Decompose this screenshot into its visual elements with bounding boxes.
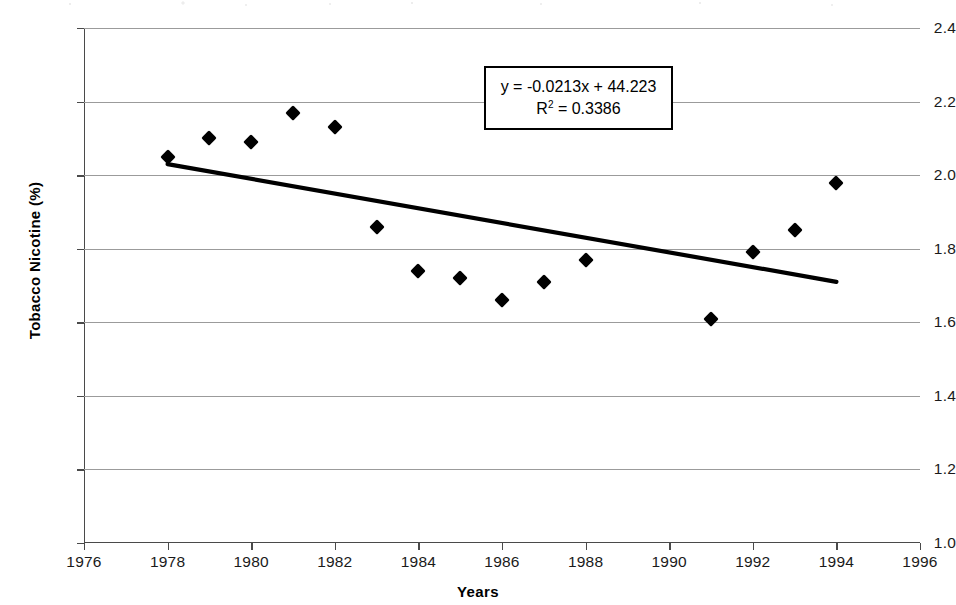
x-axis-tick-label: 1992 (718, 553, 788, 571)
x-axis-tick-label: 1990 (634, 553, 704, 571)
x-axis-tick-label: 1984 (383, 553, 453, 571)
x-axis-tick-label: 1996 (885, 553, 955, 571)
x-axis-tick (836, 543, 837, 550)
x-axis-tick-label: 1994 (801, 553, 871, 571)
gridline-y (84, 28, 920, 29)
chart-page: 1.01.21.41.61.82.02.22.4 197619781980198… (0, 0, 956, 605)
r-squared-value: = 0.3386 (553, 101, 620, 118)
x-axis-tick (920, 543, 921, 550)
x-axis-tick-label: 1976 (49, 553, 119, 571)
gridline-y (84, 249, 920, 250)
x-axis-title: Years (0, 583, 956, 600)
x-axis-tick-label: 1978 (133, 553, 203, 571)
y-axis-tick (77, 469, 84, 470)
y-axis-tick-label: 2.2 (888, 93, 956, 111)
x-axis-tick (251, 543, 252, 550)
y-axis-tick (77, 249, 84, 250)
y-axis-tick (77, 28, 84, 29)
y-axis-tick-label: 1.6 (888, 313, 956, 331)
x-axis-tick (168, 543, 169, 550)
x-axis-tick-label: 1986 (467, 553, 537, 571)
x-axis-tick (335, 543, 336, 550)
x-axis-tick (753, 543, 754, 550)
y-axis-tick-label: 1.4 (888, 387, 956, 405)
x-axis-tick (502, 543, 503, 550)
y-axis-tick-label: 1.8 (888, 240, 956, 258)
r-squared-line: R2 = 0.3386 (536, 99, 620, 118)
y-axis-tick-label: 2.4 (888, 19, 956, 37)
x-axis-tick-label: 1980 (216, 553, 286, 571)
y-axis-tick-label: 2.0 (888, 166, 956, 184)
y-axis-tick-label: 1.0 (888, 534, 956, 552)
x-axis-tick (669, 543, 670, 550)
gridline-y (84, 322, 920, 323)
y-axis-tick (77, 396, 84, 397)
x-axis-tick (586, 543, 587, 550)
gridline-y (84, 469, 920, 470)
x-axis-tick (84, 543, 85, 550)
gridline-y (84, 396, 920, 397)
scan-artifact-strip (0, 0, 956, 10)
equation-line: y = -0.0213x + 44.223 (501, 78, 657, 96)
y-axis-tick (77, 322, 84, 323)
y-axis-tick (77, 543, 84, 544)
y-axis-title: Tobacco Nicotine (%) (26, 111, 43, 411)
y-axis-tick-label: 1.2 (888, 460, 956, 478)
y-axis-tick (77, 175, 84, 176)
gridline-y (84, 175, 920, 176)
y-axis-tick (77, 102, 84, 103)
x-axis-tick-label: 1982 (300, 553, 370, 571)
equation-box: y = -0.0213x + 44.223 R2 = 0.3386 (484, 66, 673, 130)
r-squared-base: R (536, 101, 548, 118)
x-axis-tick (418, 543, 419, 550)
x-axis-tick-label: 1988 (551, 553, 621, 571)
